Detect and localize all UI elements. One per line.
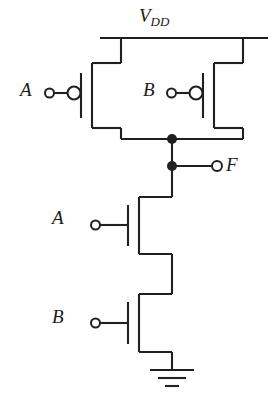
nmos-a-input-terminal-icon [91,221,100,230]
pmos-b-inversion-bubble-icon [190,87,203,100]
output-terminal-icon [212,161,222,171]
output-label: F [226,155,238,174]
pmos-b-input-terminal-icon [167,89,176,98]
pmos-a-input-label: A [20,80,32,99]
pmos-drain-junction-dot [167,134,177,144]
schematic-wires [45,38,268,386]
nmos-b-input-label: B [52,307,64,326]
output-tap-junction-dot [167,161,177,171]
vdd-label: VDD [139,6,169,28]
pmos-b-input-label: B [143,80,155,99]
pmos-a-input-terminal-icon [45,89,54,98]
schematic-canvas: VDD A B F A B [0,0,273,408]
pmos-a-inversion-bubble-icon [68,87,81,100]
vdd-label-text: V [139,5,151,26]
nmos-a-input-label: A [52,208,64,227]
nmos-b-input-terminal-icon [91,319,100,328]
vdd-label-subscript: DD [151,14,170,29]
circuit-schematic-svg [0,0,273,408]
